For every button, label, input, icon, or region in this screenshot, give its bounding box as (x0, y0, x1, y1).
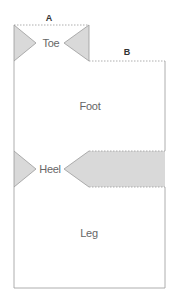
toe-label: Toe (43, 37, 60, 49)
toe-right-gusset (64, 25, 89, 61)
dimension-a-label: A (46, 13, 53, 23)
heel-left-gusset (14, 151, 36, 187)
foot-label: Foot (80, 100, 101, 112)
heel-label: Heel (39, 163, 60, 175)
sock-pattern-diagram (0, 0, 174, 305)
dimension-b-label: B (124, 47, 131, 57)
heel-right-flap (64, 151, 165, 187)
leg-label: Leg (80, 227, 97, 239)
toe-left-gusset (14, 25, 36, 61)
